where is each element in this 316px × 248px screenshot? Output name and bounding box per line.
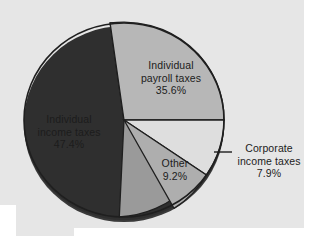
slice-value: 7.9%	[232, 167, 306, 180]
slice-label-line2: income taxes	[232, 155, 306, 168]
slice-label-other: Other 9.2%	[152, 157, 198, 182]
slice-label-line1: Corporate	[232, 142, 306, 155]
slice-label-individual-income-taxes: Individual income taxes 47.4%	[27, 113, 111, 151]
slice-label-line1: Individual	[131, 59, 211, 72]
slice-label-corporate-income-taxes: Corporate income taxes 7.9%	[232, 142, 306, 180]
slice-label-line2: payroll taxes	[131, 72, 211, 85]
slice-label-line2: income taxes	[27, 126, 111, 139]
slice-label-individual-payroll-taxes: Individual payroll taxes 35.6%	[131, 59, 211, 97]
figure-canvas: Individual payroll taxes 35.6% Individua…	[0, 0, 316, 248]
slice-value: 35.6%	[131, 84, 211, 97]
slice-label-line1: Other	[152, 157, 198, 170]
slice-value: 9.2%	[152, 170, 198, 183]
slice-label-line1: Individual	[27, 113, 111, 126]
slice-value: 47.4%	[27, 138, 111, 151]
